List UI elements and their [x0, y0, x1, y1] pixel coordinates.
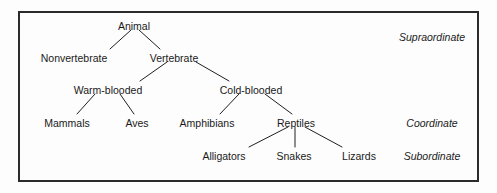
level-label-supraordinate: Supraordinate	[399, 31, 465, 43]
edge-warm_blooded-to-mammals	[77, 94, 95, 114]
level-labels-group: SupraordinateCoordinateSubordinate	[399, 31, 465, 162]
edge-warm_blooded-to-aves	[120, 94, 134, 114]
node-label-nonvertebrate: Nonvertebrate	[41, 52, 108, 64]
node-label-vertebrate: Vertebrate	[150, 52, 199, 64]
level-label-subordinate: Subordinate	[404, 150, 461, 162]
level-label-coordinate: Coordinate	[406, 117, 458, 129]
edge-vertebrate-to-warm_blooded	[140, 62, 167, 81]
edge-cold_blooded-to-reptiles	[265, 94, 292, 114]
edge-reptiles-to-alligators	[249, 127, 288, 147]
node-label-lizards: Lizards	[342, 150, 376, 162]
node-label-warm_blooded: Warm-blooded	[74, 84, 143, 96]
node-label-reptiles: Reptiles	[277, 117, 315, 129]
node-labels-group: AnimalNonvertebrateVertebrateWarm-bloode…	[41, 20, 376, 162]
node-label-cold_blooded: Cold-blooded	[220, 84, 283, 96]
edge-vertebrate-to-cold_blooded	[196, 62, 229, 81]
edge-animal-to-nonvertebrate	[110, 30, 131, 49]
figure-container: AnimalNonvertebrateVertebrateWarm-bloode…	[0, 0, 497, 193]
node-label-alligators: Alligators	[202, 150, 245, 162]
node-label-amphibians: Amphibians	[180, 117, 235, 129]
node-label-snakes: Snakes	[276, 150, 311, 162]
node-label-mammals: Mammals	[44, 117, 90, 129]
edge-reptiles-to-lizards	[305, 127, 342, 147]
edge-cold_blooded-to-amphibians	[220, 94, 239, 114]
edge-animal-to-vertebrate	[139, 30, 160, 49]
hierarchy-diagram: AnimalNonvertebrateVertebrateWarm-bloode…	[0, 0, 497, 193]
node-label-aves: Aves	[125, 117, 148, 129]
node-label-animal: Animal	[118, 20, 150, 32]
